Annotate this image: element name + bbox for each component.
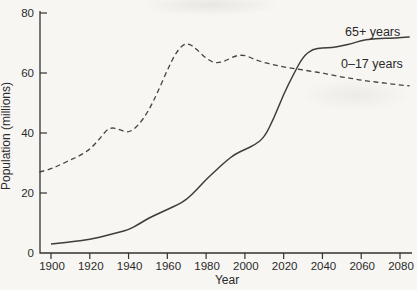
y-tick-label: 80 xyxy=(21,7,34,19)
x-tick-label: 1940 xyxy=(117,260,143,272)
axis-lines xyxy=(40,11,412,253)
x-tick-label: 2040 xyxy=(311,260,337,272)
tick-labels: 0204060801900192019401960198020002020204… xyxy=(21,7,414,272)
series-label-65plus: 65+ years xyxy=(345,25,400,39)
x-tick-label: 2060 xyxy=(349,260,375,272)
y-tick-label: 40 xyxy=(21,127,34,139)
axes xyxy=(40,11,412,253)
x-axis-title: Year xyxy=(215,273,239,287)
y-tick-label: 20 xyxy=(21,187,34,199)
x-tick-label: 2020 xyxy=(272,260,298,272)
y-axis-title: Population (millions) xyxy=(0,82,13,190)
y-tick-label: 0 xyxy=(28,247,34,259)
series-label-0-17: 0–17 years xyxy=(341,57,403,71)
y-tick-label: 60 xyxy=(21,67,34,79)
x-tick-label: 1960 xyxy=(156,260,182,272)
scanned-chart-page: 0204060801900192019401960198020002020204… xyxy=(0,0,417,290)
x-tick-label: 2080 xyxy=(388,260,414,272)
tick-marks xyxy=(40,13,400,259)
x-tick-label: 2000 xyxy=(233,260,259,272)
chart-svg: 0204060801900192019401960198020002020204… xyxy=(0,0,417,290)
x-tick-label: 1900 xyxy=(39,260,65,272)
x-tick-label: 1920 xyxy=(78,260,104,272)
x-tick-label: 1980 xyxy=(194,260,220,272)
